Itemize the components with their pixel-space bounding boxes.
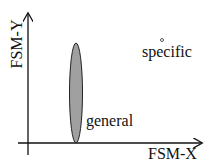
- general-label: general: [86, 113, 133, 129]
- y-axis-label: FSM-Y: [9, 19, 25, 69]
- specific-label: specific: [142, 44, 192, 60]
- general-ellipse: [70, 43, 83, 143]
- diagram-canvas: [0, 0, 212, 166]
- x-axis-label: FSM-X: [148, 146, 197, 162]
- specific-point: [161, 39, 164, 42]
